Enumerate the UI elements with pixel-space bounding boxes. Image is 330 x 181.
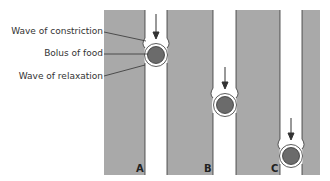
panel-label-b: B — [204, 163, 212, 174]
bolus-b — [217, 97, 234, 114]
arrow-down-icon — [288, 118, 294, 140]
label-bolus-of-food: Bolus of food — [44, 48, 103, 58]
panel-label-a: A — [136, 163, 144, 174]
bolus-c — [283, 148, 300, 165]
bolus-a — [148, 47, 165, 64]
esophagus-wall-c-right — [302, 10, 320, 175]
label-wave-of-constriction: Wave of constriction — [11, 26, 103, 36]
arrow-down-icon — [222, 67, 228, 89]
esophagus-wall-bc — [236, 10, 280, 175]
label-wave-of-relaxation: Wave of relaxation — [19, 71, 103, 81]
esophagus-wall-ab — [167, 10, 213, 175]
esophagus-wall-a-left — [104, 10, 145, 175]
arrow-down-icon — [153, 14, 159, 39]
panel-label-c: C — [271, 163, 278, 174]
